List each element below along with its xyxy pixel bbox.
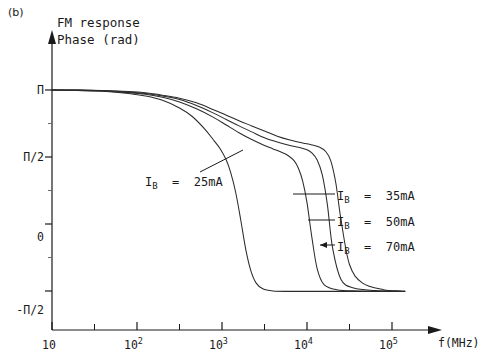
annotation-ib-35ma: IB = 35mA (337, 189, 415, 203)
x-tick-label-2: 102 (124, 338, 143, 352)
y-tick-label-zero: 0 (14, 230, 44, 244)
x-tick-label-3: 103 (209, 338, 228, 352)
leader-25ma (200, 150, 243, 172)
x-tick-label-4: 104 (294, 338, 313, 352)
x-tick-label-1: 10 (42, 338, 56, 352)
x-tick-marks (52, 322, 392, 330)
y-tick-label-neg-pi-half: -Π/2 (2, 303, 44, 317)
annotation-ib-25ma: IB = 25mA (145, 175, 223, 189)
annotation-ib-50ma: IB = 50mA (337, 215, 415, 229)
leader-70ma-arrowhead (320, 242, 327, 248)
y-tick-label-pi: Π (14, 83, 44, 97)
x-tick-label-5: 105 (379, 338, 398, 352)
y-axis-arrowhead (48, 30, 56, 44)
annotation-ib-70ma: IB = 70mA (337, 240, 415, 254)
x-axis-arrowhead (428, 326, 442, 334)
axes-group (48, 30, 442, 334)
y-tick-label-pi-half: Π/2 (8, 150, 44, 164)
y-tick-marks (45, 90, 52, 291)
x-axis-title: f(MHz) (438, 336, 480, 350)
annotation-leader-lines (200, 150, 335, 248)
